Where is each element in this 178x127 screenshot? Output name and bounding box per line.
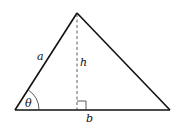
side-right <box>77 13 170 110</box>
label-b: b <box>86 112 93 125</box>
label-theta: θ <box>25 97 32 110</box>
triangle-diagram: a h b θ <box>0 0 178 127</box>
right-angle-marker <box>77 101 86 110</box>
side-a <box>15 13 77 110</box>
label-a: a <box>37 50 44 63</box>
label-h: h <box>80 56 87 69</box>
